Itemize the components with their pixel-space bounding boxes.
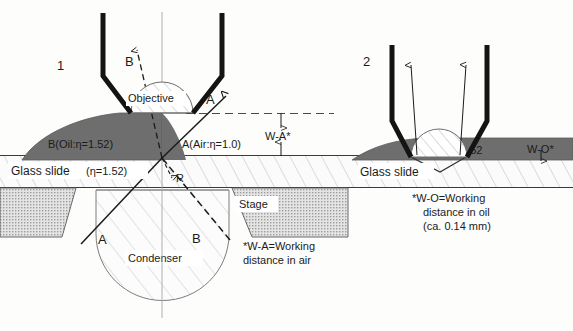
footnote-oil-group: *W-O=Working distance in oil (ca. 0.14 m… (412, 192, 491, 232)
ray-b-bottom-label: B (192, 231, 201, 246)
glass-slide-label-group-panel1: Glass slide (η=1.52) (8, 162, 148, 179)
stage-block-left (0, 188, 76, 237)
condenser-label: Condenser (128, 252, 182, 264)
working-distance-air-label: W-A* (265, 130, 291, 142)
objective-front-lens-panel2 (411, 129, 467, 157)
footnote-air-line2: distance in air (243, 254, 311, 266)
air-region-label: A(Air:η=1.0) (182, 138, 241, 150)
objective-group-panel1: Objective (103, 13, 222, 113)
oil-drop-left (22, 113, 162, 160)
stage-block-right (232, 188, 348, 237)
glass-slide-label-group-panel2: Glass slide (358, 163, 434, 179)
glass-slide-label-panel2: Glass slide (360, 165, 419, 179)
footnote-oil-line1: *W-O=Working (412, 192, 485, 204)
footnote-air-line1: *W-A=Working (243, 240, 315, 252)
stage-label: Stage (239, 198, 268, 210)
footnote-air-group: *W-A=Working distance in air (243, 240, 315, 266)
footnote-oil-line2: distance in oil (423, 206, 490, 218)
figure-canvas: Stage Condenser B(Oil:η=1.52) A(Air:η=1.… (0, 0, 573, 331)
ray-a-bottom-label: A (98, 232, 107, 247)
objective-label: Objective (128, 92, 174, 104)
panel-number-2: 2 (363, 54, 370, 69)
footnote-oil-line3: (ca. 0.14 mm) (423, 220, 491, 232)
ray-b-top-label: B (125, 54, 134, 69)
oil-drop-under-objective (162, 113, 186, 160)
glass-slide-index-label: (η=1.52) (86, 165, 127, 177)
oil-drop-label-panel1: B(Oil:η=1.52) (48, 138, 113, 150)
objective-barrel-right-panel1 (193, 13, 222, 113)
panel-number-1: 1 (57, 58, 64, 73)
ray-r-label: R (176, 172, 184, 184)
glass-slide-label-panel1: Glass slide (11, 164, 70, 178)
